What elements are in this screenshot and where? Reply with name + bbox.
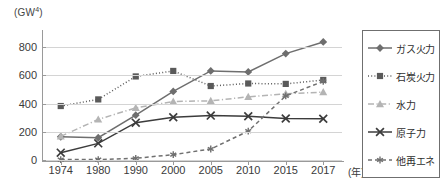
data-point-square-marker [245, 80, 251, 86]
x-axis-line [42, 161, 344, 162]
chart-legend: ガス火力石炭火力水力原子力他再エネ [362, 30, 440, 178]
x-tick-mark [286, 161, 287, 165]
data-point-triangle-marker [132, 104, 140, 111]
y-tick-mark [42, 132, 46, 133]
y-axis-tick-labels: 0200400600800 [0, 0, 37, 190]
legend-label: 石炭火力 [396, 69, 435, 84]
legend-item-ガス火力[interactable]: ガス火力 [363, 34, 439, 62]
gridline [42, 104, 342, 105]
data-point-triangle-marker [94, 115, 102, 122]
x-tick-mark [136, 161, 137, 165]
data-point-diamond-marker [376, 44, 384, 52]
y-tick-label: 200 [0, 126, 37, 138]
legend-swatch [367, 97, 393, 111]
y-tick-label: 400 [0, 98, 37, 110]
data-point-triangle-marker [319, 88, 327, 95]
y-tick-mark [42, 75, 46, 76]
data-point-square-marker [283, 81, 289, 87]
gridline [42, 75, 342, 76]
y-tick-mark [42, 104, 46, 105]
data-point-square-marker [377, 73, 383, 79]
series-layer [42, 36, 342, 160]
x-tick-label: 1990 [124, 164, 148, 176]
data-point-diamond-marker [132, 111, 140, 119]
x-tick-label: 2005 [199, 164, 223, 176]
x-tick-label: 1974 [49, 164, 73, 176]
legend-item-石炭火力[interactable]: 石炭火力 [363, 62, 439, 90]
legend-swatch [367, 41, 393, 55]
data-point-diamond-marker [169, 87, 177, 95]
y-tick-label: 0 [0, 154, 37, 166]
x-tick-mark [248, 161, 249, 165]
legend-swatch [367, 125, 393, 139]
data-point-square-marker [95, 96, 101, 102]
x-tick-label: 2015 [274, 164, 298, 176]
x-tick-mark [61, 161, 62, 165]
legend-swatch [367, 153, 393, 167]
x-tick-label: 2010 [236, 164, 260, 176]
x-tick-mark [323, 161, 324, 165]
legend-label: 他再エネ [396, 153, 435, 168]
data-point-diamond-marker [282, 50, 290, 58]
gridline [42, 47, 342, 48]
x-tick-label: 1980 [86, 164, 110, 176]
x-tick-mark [98, 161, 99, 165]
x-tick-label: 2000 [161, 164, 185, 176]
legend-label: 水力 [396, 97, 416, 112]
legend-item-他再エネ[interactable]: 他再エネ [363, 146, 439, 174]
y-tick-label: 600 [0, 69, 37, 81]
y-tick-mark [42, 47, 46, 48]
x-tick-label: 2017 [311, 164, 335, 176]
series-line [61, 42, 324, 138]
y-tick-mark [42, 160, 46, 161]
x-tick-mark [211, 161, 212, 165]
data-point-square-marker [208, 83, 214, 89]
data-point-diamond-marker [319, 38, 327, 46]
gridline [42, 132, 342, 133]
legend-item-水力[interactable]: 水力 [363, 90, 439, 118]
plot-area [42, 36, 342, 160]
legend-swatch [367, 69, 393, 83]
legend-label: ガス火力 [396, 41, 435, 56]
data-point-diamond-marker [207, 67, 215, 75]
legend-label: 原子力 [396, 125, 425, 140]
line-chart: (GW4) 0200400600800 19741980199020002005… [0, 0, 446, 190]
legend-item-原子力[interactable]: 原子力 [363, 118, 439, 146]
gridline [42, 160, 342, 161]
data-point-square-marker [170, 68, 176, 74]
series-ガス火力 [57, 38, 327, 142]
y-tick-label: 800 [0, 41, 37, 53]
x-tick-mark [173, 161, 174, 165]
